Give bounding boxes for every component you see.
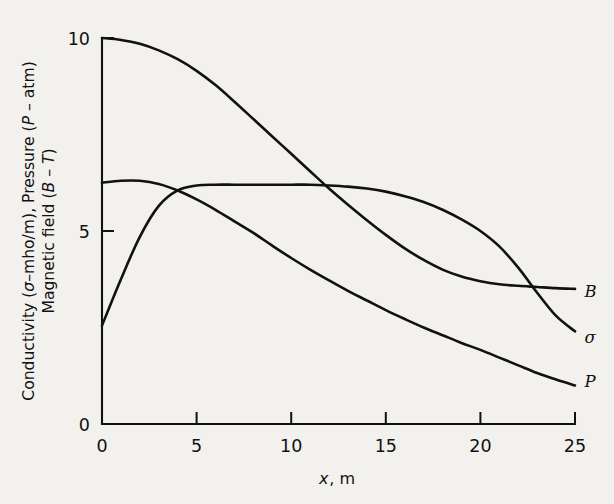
curve-label-sigma: σ [585, 328, 597, 347]
y-tick-label-5: 5 [79, 222, 90, 242]
curve-label-B: B [584, 282, 597, 301]
line-chart: 10 5 0 0 5 10 15 20 25 x, m Conductivity… [0, 0, 614, 504]
x-tick-label-0: 0 [96, 436, 107, 456]
x-tick-label-20: 20 [469, 436, 491, 456]
y-axis-title-l2-p1: Magnetic field ( [40, 192, 58, 313]
y-axis-title-l1-p1: Conductivity ( [20, 292, 38, 401]
y-axis-title-l2-p2: – [40, 164, 58, 182]
y-axis-title-line1: Conductivity (σ–mho/m), Pressure (P – at… [20, 61, 38, 401]
curve-label-P: P [584, 372, 597, 391]
x-tick-label-15: 15 [375, 436, 397, 456]
y-axis-title-l2-p3: ) [40, 148, 58, 154]
x-tick-label-10: 10 [280, 436, 302, 456]
x-axis-title: x, m [318, 469, 355, 488]
y-tick-label-0: 0 [79, 415, 90, 435]
x-tick-label-25: 25 [564, 436, 586, 456]
y-tick-label-10: 10 [68, 29, 90, 49]
magnetic-field-symbol: B [40, 182, 58, 193]
y-axis-title-l1-p2: –mho/m), Pressure ( [20, 125, 38, 281]
figure-container: 10 5 0 0 5 10 15 20 25 x, m Conductivity… [0, 0, 614, 504]
x-axis-title-variable: x [318, 469, 329, 488]
x-tick-label-5: 5 [191, 436, 202, 456]
y-axis-title-line2: Magnetic field (B – T) [40, 148, 58, 313]
x-axis-title-unit: , m [329, 469, 355, 488]
chart-background [0, 0, 614, 504]
y-axis-title-l1-p3: – atm) [20, 61, 38, 116]
